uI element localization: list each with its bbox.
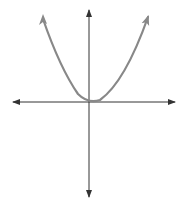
left-curve-arrow-icon <box>39 14 47 25</box>
parabola-graph <box>0 0 181 208</box>
parabola-curve <box>43 17 148 101</box>
